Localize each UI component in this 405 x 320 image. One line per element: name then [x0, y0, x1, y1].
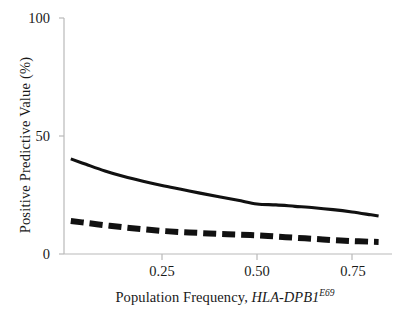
tick-marks [59, 18, 352, 260]
figure-root: Positive Predictive Value (%) 100 50 0 0… [0, 0, 405, 320]
dashed-curve [71, 221, 379, 242]
axis-lines [64, 18, 392, 254]
plot-area [0, 0, 405, 320]
solid-curve [71, 159, 379, 216]
data-series-group [71, 159, 379, 242]
